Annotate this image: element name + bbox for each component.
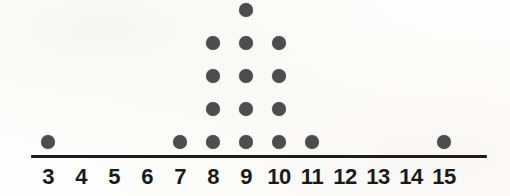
x-axis-tick-label-8: 8 — [207, 166, 219, 188]
x-axis-tick-label-5: 5 — [108, 166, 120, 188]
dot-value-9-stack-2 — [239, 102, 253, 116]
dot-value-8-stack-4 — [206, 36, 220, 50]
dot-value-8-stack-2 — [206, 102, 220, 116]
dot-value-10-stack-4 — [272, 36, 286, 50]
dot-value-9-stack-1 — [239, 135, 253, 149]
x-axis-tick-label-11: 11 — [301, 166, 323, 188]
dot-value-8-stack-1 — [206, 135, 220, 149]
dot-value-9-stack-3 — [239, 69, 253, 83]
dot-plot-figure: 3456789101112131415 — [0, 0, 510, 196]
x-axis-tick-label-14: 14 — [399, 166, 422, 188]
x-axis-tick-label-13: 13 — [366, 166, 389, 188]
dot-value-9-stack-4 — [239, 36, 253, 50]
x-axis-tick-label-6: 6 — [141, 166, 153, 188]
dot-value-9-stack-5 — [239, 3, 253, 17]
x-axis-tick-label-15: 15 — [432, 166, 455, 188]
x-axis-tick-label-12: 12 — [333, 166, 356, 188]
x-axis-tick-label-7: 7 — [174, 166, 186, 188]
dot-value-7-stack-1 — [173, 135, 187, 149]
dot-value-3-stack-1 — [41, 135, 55, 149]
x-axis-tick-label-10: 10 — [267, 166, 290, 188]
dot-value-11-stack-1 — [305, 135, 319, 149]
x-axis-tick-label-3: 3 — [42, 166, 54, 188]
dot-value-10-stack-1 — [272, 135, 286, 149]
x-axis-line — [31, 155, 487, 158]
dot-value-15-stack-1 — [437, 135, 451, 149]
dot-value-8-stack-3 — [206, 69, 220, 83]
x-axis-tick-label-4: 4 — [75, 166, 87, 188]
dot-value-10-stack-3 — [272, 69, 286, 83]
x-axis-tick-label-9: 9 — [240, 166, 252, 188]
dot-value-10-stack-2 — [272, 102, 286, 116]
